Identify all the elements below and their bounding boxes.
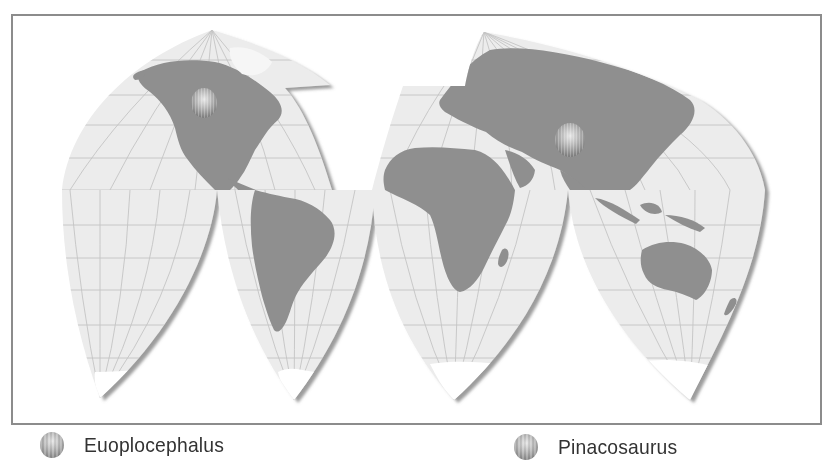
pinacosaurus-marker[interactable] — [555, 123, 585, 157]
legend-label: Euoplocephalus — [84, 433, 224, 457]
legend-item-pinacosaurus: Pinacosaurus — [514, 434, 688, 460]
legend-item-euoplocephalus: Euoplocephalus — [40, 432, 236, 458]
sphere-marker-icon — [514, 434, 538, 460]
world-map — [0, 0, 825, 430]
map-legend: Euoplocephalus Pinacosaurus — [0, 432, 825, 462]
euoplocephalus-marker[interactable] — [191, 88, 217, 118]
sphere-marker-icon — [40, 432, 64, 458]
legend-label: Pinacosaurus — [558, 435, 677, 459]
antarctica — [95, 360, 712, 402]
